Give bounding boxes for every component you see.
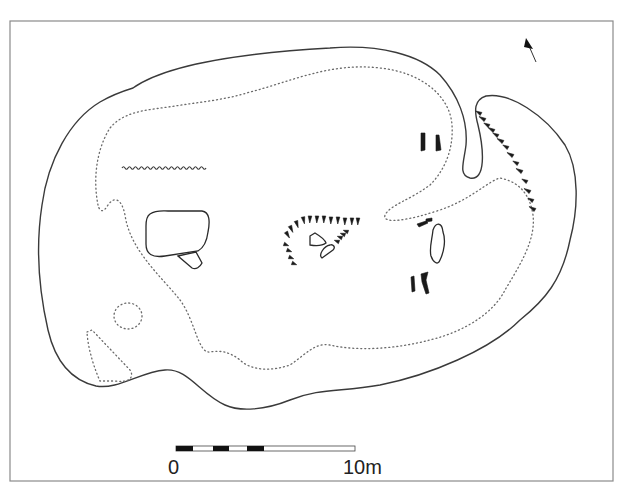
enclosure-triangle-stone	[310, 233, 326, 246]
hachure-mark	[484, 123, 490, 128]
dotted-circular-feature	[114, 303, 142, 329]
scale-bar-segment	[213, 446, 229, 451]
wavy-line-feature	[122, 167, 206, 170]
scale-start-label: 0	[168, 457, 179, 477]
hachure-mark	[284, 231, 289, 238]
stone-6	[421, 272, 429, 294]
stone-2	[436, 135, 441, 151]
stone-4	[426, 218, 432, 222]
hachure-mark	[283, 242, 288, 245]
enclosure-arc-hachures	[284, 216, 359, 238]
hachure-mark	[315, 216, 319, 223]
hachure-mark	[479, 117, 486, 122]
hachure-mark	[301, 217, 305, 224]
rectangular-structure	[146, 211, 209, 257]
hachure-mark	[329, 217, 333, 224]
hachure-mark	[493, 133, 499, 138]
hachure-mark	[356, 218, 360, 225]
dotted-triangular-feature	[87, 330, 132, 381]
hachure-mark	[308, 216, 312, 223]
hachure-mark	[503, 145, 509, 150]
scale-bar-segment	[176, 446, 193, 451]
scale-end-label: 10m	[343, 457, 382, 477]
hachure-mark	[513, 161, 519, 166]
stone-5	[411, 276, 415, 292]
hachure-mark	[336, 217, 340, 224]
hachure-mark	[322, 216, 326, 223]
scale-bar-segment	[247, 446, 264, 451]
hachure-mark	[334, 240, 339, 243]
hachure-mark	[294, 220, 298, 227]
stone-1	[421, 133, 425, 151]
hachure-mark	[488, 128, 495, 133]
hachure-mark	[288, 255, 293, 258]
boulder-outline	[430, 224, 444, 263]
solid-stones	[411, 133, 441, 294]
hachure-mark	[288, 225, 292, 232]
hachure-mark	[291, 261, 296, 264]
site-outer-outline	[39, 47, 576, 409]
hachure-mark	[350, 218, 354, 225]
hachure-mark	[343, 218, 347, 225]
north-arrow-icon	[524, 38, 536, 62]
hachure-mark	[507, 153, 514, 158]
hachure-mark	[497, 139, 504, 144]
site-plan	[0, 0, 624, 489]
hachure-mark	[286, 248, 291, 251]
figure-frame	[10, 21, 613, 481]
enclosure-oval-stone	[321, 245, 335, 258]
hachure-mark	[516, 169, 523, 174]
structure-annex	[178, 252, 202, 269]
scale-bar	[176, 446, 355, 451]
hachure-mark	[522, 179, 528, 184]
hachure-mark	[337, 236, 342, 239]
hachure-mark	[476, 111, 482, 116]
